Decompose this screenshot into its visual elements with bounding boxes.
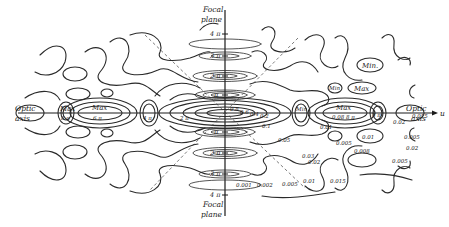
svg-text:0.01: 0.01 (320, 124, 332, 130)
min-label-small: Min (328, 85, 340, 91)
svg-text:Max: Max (353, 85, 369, 93)
contour-value: 0.015 (330, 178, 346, 184)
svg-text:6 π: 6 π (93, 115, 102, 121)
tick-top-2pi: 2 π (209, 72, 221, 80)
contour-value: 0.005 (282, 181, 298, 187)
max-sub-8pi-left: 8 π (61, 115, 70, 121)
contour-value: 0.015 (412, 113, 428, 119)
contour-value: 0.1 (262, 123, 271, 129)
svg-text:0.001: 0.001 (236, 182, 252, 188)
tick-top-4pi: 4 π (209, 30, 221, 38)
contour-value: 0.02 (406, 145, 419, 151)
svg-text:4 π: 4 π (209, 30, 221, 38)
svg-text:8 π: 8 π (372, 112, 381, 118)
isophote-contour-diagram: Focal plane 4 π 3 π 2 π π π 2 π 3 π 4 π … (0, 0, 449, 227)
svg-text:0.8: 0.8 (230, 106, 239, 112)
optic-axis-left-label-2: axis (15, 114, 30, 123)
svg-text:4 π: 4 π (142, 115, 152, 121)
tick-bottom-pi: π (213, 128, 219, 136)
max-label-8pi-left: Max (59, 105, 75, 113)
contour-value: 0.6 (240, 109, 249, 115)
svg-text:8 π: 8 π (61, 115, 70, 121)
svg-text:3 π: 3 π (210, 52, 221, 60)
optic-axis-right-label-1: Optic (406, 104, 427, 113)
svg-text:0.6: 0.6 (240, 109, 249, 115)
contour-value: 0.01 (320, 124, 332, 130)
contour-value: 0.005 (336, 140, 352, 146)
focal-plane-top-label-1: Focal (202, 5, 224, 14)
tick-top-3pi: 3 π (210, 52, 221, 60)
svg-text:Focal: Focal (202, 5, 224, 14)
svg-text:π: π (213, 91, 219, 99)
svg-text:0.008: 0.008 (354, 148, 370, 154)
contour-value: 0.005 (392, 158, 408, 164)
svg-text:2 π: 2 π (209, 149, 221, 157)
label-8pi-right: 8 π (372, 112, 381, 118)
contour-value: 0.01 (303, 178, 315, 184)
focal-plane-bottom-label-1: Focal (202, 200, 224, 209)
svg-text:Optic: Optic (406, 104, 427, 113)
contour-value: 0.05 (278, 137, 291, 143)
contour-value: 0.005 (404, 134, 420, 140)
label-2pi-left: 2 π (179, 115, 189, 121)
contour-value: 0.8 (230, 106, 239, 112)
min-label-axis-right: Min (295, 106, 307, 112)
arrow-right-icon (432, 111, 438, 116)
svg-text:π: π (213, 128, 219, 136)
svg-text:Max: Max (59, 105, 75, 113)
max-label-6pi: Max (91, 104, 107, 112)
max-label-right: Max (335, 104, 351, 112)
svg-text:axis: axis (15, 114, 30, 123)
svg-text:0.02: 0.02 (393, 119, 406, 125)
svg-text:2 π: 2 π (179, 115, 189, 121)
svg-text:plane: plane (201, 15, 223, 24)
svg-text:Min: Min (295, 106, 307, 112)
svg-text:u: u (440, 109, 445, 118)
contour-value: 0.02 (308, 159, 321, 165)
svg-text:0.05: 0.05 (278, 137, 291, 143)
svg-text:Max: Max (335, 104, 351, 112)
svg-text:0.005: 0.005 (404, 134, 420, 140)
optic-axis-left-label-1: Optic (15, 104, 36, 113)
vertical-axis-labels: Focal plane 4 π 3 π 2 π π π 2 π 3 π 4 π … (201, 5, 224, 219)
contour-value: 0.2 (260, 113, 269, 119)
focal-plane-top-label-2: plane (201, 15, 223, 24)
svg-text:0.4: 0.4 (250, 111, 259, 117)
contour-value: 0.001 (236, 182, 252, 188)
svg-text:plane: plane (201, 210, 223, 219)
min-label-upper: Min. (361, 62, 378, 70)
u-variable-label: u (440, 109, 445, 118)
contour-value: 0.01 (362, 134, 374, 140)
svg-text:3 π: 3 π (210, 170, 221, 178)
svg-text:0.02: 0.02 (406, 145, 419, 151)
focal-plane-bottom-label-2: plane (201, 210, 223, 219)
max-label-upper-right: Max (353, 85, 369, 93)
svg-text:Optic: Optic (15, 104, 36, 113)
svg-text:0.1: 0.1 (262, 123, 271, 129)
svg-text:0.02: 0.02 (308, 159, 321, 165)
contour-value: 0.008 (354, 148, 370, 154)
svg-text:0.01: 0.01 (362, 134, 374, 140)
label-4pi-left: 4 π (142, 115, 152, 121)
tick-bottom-4pi: 4 π (209, 191, 221, 199)
max-sub-right: 0.08 8 π (332, 114, 355, 120)
contour-value: 0.4 (250, 111, 259, 117)
svg-text:Min.: Min. (361, 62, 378, 70)
svg-text:Focal: Focal (202, 200, 224, 209)
contour-value: 0.002 (257, 182, 273, 188)
contour-value: 0.02 (393, 119, 406, 125)
svg-text:0.2: 0.2 (260, 113, 269, 119)
svg-text:0.01: 0.01 (303, 178, 315, 184)
tick-top-pi: π (213, 91, 219, 99)
svg-text:Min: Min (328, 85, 340, 91)
svg-text:0.002: 0.002 (257, 182, 273, 188)
svg-text:0.015: 0.015 (330, 178, 346, 184)
svg-text:Max: Max (91, 104, 107, 112)
svg-text:0.015: 0.015 (412, 113, 428, 119)
max-sub-6pi: 6 π (93, 115, 102, 121)
svg-text:0.08 8 π: 0.08 8 π (332, 114, 355, 120)
tick-bottom-3pi: 3 π (210, 170, 221, 178)
svg-text:0.005: 0.005 (282, 181, 298, 187)
svg-text:4 π: 4 π (209, 191, 221, 199)
svg-text:0.005: 0.005 (392, 158, 408, 164)
